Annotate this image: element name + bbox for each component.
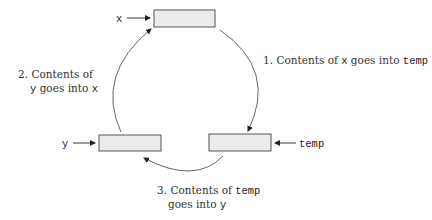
arc-step-1-arrow-icon	[220, 30, 258, 131]
diagram-svg: x y temp 1. Contents of x goes into temp…	[0, 0, 432, 220]
x-box	[154, 10, 215, 27]
temp-box	[209, 134, 271, 151]
y-label: y	[62, 138, 68, 150]
temp-label: temp	[299, 138, 324, 150]
step-2-caption-line-2: y goes into x	[30, 82, 98, 95]
step-2-caption-line-1: 2. Contents of	[18, 68, 94, 80]
step-3-caption-line-2: goes into y	[168, 198, 226, 211]
y-box	[99, 135, 161, 151]
step-3-caption-line-1: 3. Contents of temp	[157, 184, 260, 197]
step-1-caption: 1. Contents of x goes into temp	[263, 54, 428, 67]
arc-step-2-arrow-icon	[113, 29, 151, 132]
swap-diagram: x y temp 1. Contents of x goes into temp…	[0, 0, 432, 220]
x-label: x	[116, 13, 122, 25]
arc-step-3-arrow-icon	[144, 156, 223, 171]
